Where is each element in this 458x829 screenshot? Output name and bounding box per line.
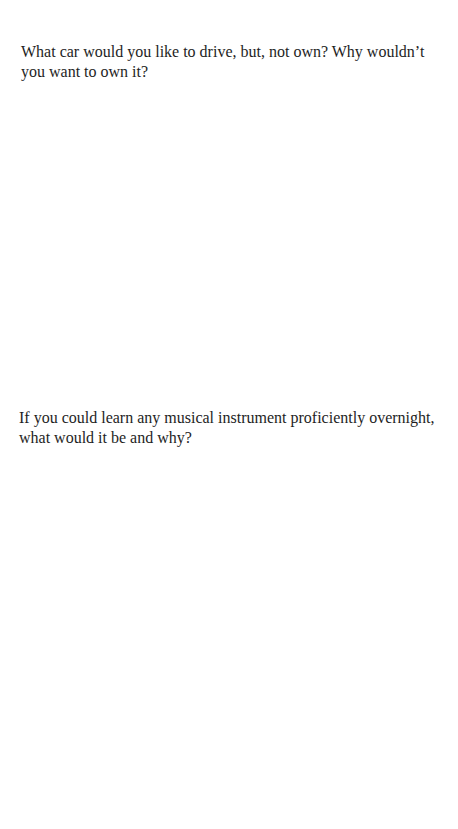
question-1: What car would you like to drive, but, n… — [21, 42, 451, 82]
question-2: If you could learn any musical instrumen… — [19, 408, 449, 448]
